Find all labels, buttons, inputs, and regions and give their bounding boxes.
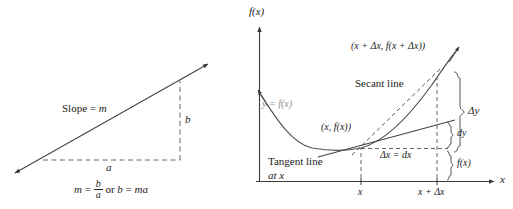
fx-brace [447,151,453,180]
delta-y-label: Δy [468,105,479,117]
math-figure: Slope = m b a m = b a or b = ma f(x) x y… [0,0,513,209]
right-panel-group [0,0,494,185]
formula-denominator: a [94,189,103,200]
formula-fraction: b a [94,179,103,200]
slope-label-text: Slope = [62,102,96,114]
formula-rhs-right: ma [135,183,148,195]
delta-y-brace [454,72,464,152]
run-label-a: a [106,162,112,174]
x-tick-label: x [358,187,362,198]
point-label-left: (x, f(x)) [321,122,351,133]
curve-label: y = f(x) [262,99,292,110]
rise-label-b: b [185,114,191,126]
curve-end-arrowhead [449,47,459,62]
tangent-line-label: Tangent line at x [268,155,323,183]
slope-formula: m = b a or b = ma [74,180,148,201]
formula-equals: = [85,183,91,195]
left-panel-group [15,64,208,173]
slope-label-var: m [99,102,107,114]
slope-equation-label: Slope = m [62,103,107,115]
dy-label: dy [457,128,466,139]
x-plus-dx-tick-label: x + Δx [418,187,445,198]
formula-rhs-equals: = [126,183,132,195]
point-label-right: (x + Δx, f(x + Δx)) [351,41,425,52]
formula-connector: or [105,183,114,195]
slope-line [15,64,208,173]
secant-line-label: Secant line [355,78,404,90]
y-axis-label: f(x) [249,6,264,18]
fx-brace-label: f(x) [457,158,471,169]
formula-lhs: m [74,183,82,195]
formula-rhs-left: b [117,183,123,195]
delta-x-label: Δx = dx [380,150,412,161]
formula-numerator: b [94,179,103,189]
x-axis-label: x [500,174,505,186]
tangent-label-line2: at x [268,169,323,183]
dy-brace [447,122,453,148]
tangent-label-line1: Tangent line [268,155,323,169]
